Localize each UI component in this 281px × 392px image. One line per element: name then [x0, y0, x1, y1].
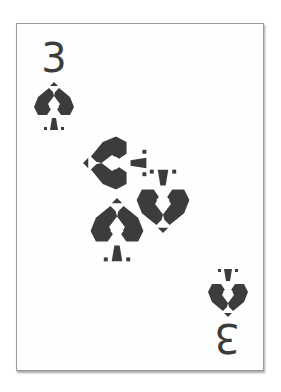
rank-label-top-left: 3: [34, 38, 74, 78]
playing-card[interactable]: 3 3: [16, 23, 264, 371]
rank-label-bottom-right: 3: [207, 318, 247, 358]
spade-icon: [136, 167, 190, 233]
spade-icon: [90, 198, 144, 264]
spade-icon: [34, 82, 74, 132]
spade-icon: [208, 267, 248, 317]
